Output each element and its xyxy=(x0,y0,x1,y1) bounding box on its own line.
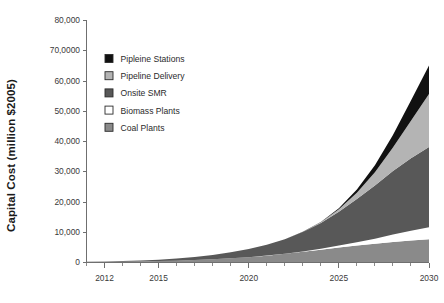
y-tick-label: 60,000 xyxy=(54,76,80,86)
x-tick-label: 2025 xyxy=(330,273,349,283)
legend-swatch-inner xyxy=(107,56,111,60)
legend-label: Pipleine Stations xyxy=(121,54,185,64)
y-tick-label: 20,000 xyxy=(54,197,80,207)
chart-container: Capital Cost (million $2005) 010,00020,0… xyxy=(0,0,444,303)
y-tick-label: 40,000 xyxy=(54,136,80,146)
x-tick-label: 2020 xyxy=(239,273,258,283)
x-tick-label: 2015 xyxy=(149,273,168,283)
y-tick-label: 80,000 xyxy=(54,15,80,25)
y-tick-label: 0 xyxy=(75,257,80,267)
legend-swatch-inner xyxy=(107,125,111,129)
legend-label: Biomass Plants xyxy=(121,106,180,116)
x-tick-label: 2012 xyxy=(95,273,114,283)
y-axis-tick-labels: 010,00020,00030,00040,00050,00060,00070,… xyxy=(50,15,81,267)
legend-swatch-inner xyxy=(107,74,111,78)
y-tick-label: 70,0000 xyxy=(50,45,81,55)
stacked-area-chart: Capital Cost (million $2005) 010,00020,0… xyxy=(0,0,444,303)
y-tick-label: 30,000 xyxy=(54,166,80,176)
y-axis-title: Capital Cost (million $2005) xyxy=(5,79,17,232)
x-tick-label: 2030 xyxy=(420,273,439,283)
legend-swatch-icon xyxy=(105,106,113,114)
legend-swatch-inner xyxy=(107,91,111,95)
legend-label: Onsite SMR xyxy=(121,88,167,98)
legend-label: Pipeline Delivery xyxy=(121,71,186,81)
y-tick-label: 50,000 xyxy=(54,106,80,116)
legend-label: Coal Plants xyxy=(121,123,165,133)
y-tick-label: 10,000 xyxy=(54,227,80,237)
